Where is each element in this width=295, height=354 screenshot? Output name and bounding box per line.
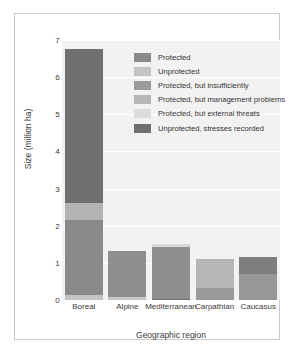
legend-label: Unprotected, stresses recorded [158, 124, 264, 133]
bar-segment[interactable] [239, 257, 277, 274]
bar-segment[interactable] [65, 220, 103, 295]
legend-swatch [134, 67, 151, 76]
legend-swatch [134, 95, 151, 104]
y-tick-label: 2 [20, 221, 60, 230]
legend-swatch [134, 124, 151, 133]
bar-stack[interactable] [65, 49, 103, 300]
x-tick-label: Alpine [116, 302, 138, 311]
x-tick-label: Caucasus [240, 302, 276, 311]
figure-frame: 01234567 Size (million ha) BorealAlpineM… [14, 13, 280, 340]
legend-item[interactable]: Unprotected, stresses recorded [134, 121, 284, 135]
legend-item[interactable]: Protected, but external threats [134, 107, 284, 121]
chart-figure: 01234567 Size (million ha) BorealAlpineM… [0, 0, 295, 354]
legend-item[interactable]: Protected, but management problems [134, 93, 284, 107]
bar-segment[interactable] [152, 247, 190, 299]
bar-segment[interactable] [108, 251, 146, 297]
x-axis-title: Geographic region [62, 330, 280, 340]
bar-segment[interactable] [152, 244, 190, 247]
legend-item[interactable]: Protected, but insufficiently [134, 78, 284, 92]
x-tick-label: Carpathian [195, 302, 234, 311]
bar-stack[interactable] [196, 259, 234, 300]
legend-swatch [134, 81, 151, 90]
bar-segment[interactable] [65, 295, 103, 300]
legend-label: Protected, but management problems [158, 95, 285, 104]
y-tick-label: 0 [20, 296, 60, 305]
y-tick-label: 1 [20, 258, 60, 267]
bar-segment[interactable] [196, 259, 234, 288]
y-tick-label: 7 [20, 36, 60, 45]
x-axis-ticks: BorealAlpineMediterraneanCarpathianCauca… [62, 302, 280, 318]
bar-segment[interactable] [65, 203, 103, 220]
legend-label: Unprotected [158, 67, 199, 76]
bar-segment[interactable] [196, 288, 234, 300]
legend-label: Protected [158, 53, 191, 62]
bar-segment[interactable] [65, 49, 103, 203]
bar-stack[interactable] [152, 244, 190, 300]
bar-segment[interactable] [239, 274, 277, 300]
chart-legend: ProtectedUnprotectedProtected, but insuf… [134, 50, 284, 135]
y-axis-ticks: 01234567 [15, 40, 60, 300]
bar-stack[interactable] [108, 251, 146, 300]
legend-item[interactable]: Protected [134, 50, 284, 64]
legend-item[interactable]: Unprotected [134, 64, 284, 78]
legend-label: Protected, but insufficiently [158, 81, 249, 90]
legend-label: Protected, but external threats [158, 109, 260, 118]
x-tick-label: Mediterranean [145, 302, 197, 311]
legend-swatch [134, 53, 151, 62]
bar-segment[interactable] [152, 299, 190, 300]
x-tick-label: Boreal [72, 302, 95, 311]
bar-stack[interactable] [239, 257, 277, 300]
legend-swatch [134, 109, 151, 118]
bar-segment[interactable] [108, 297, 146, 300]
y-axis-title: Size (million ha) [23, 64, 33, 214]
